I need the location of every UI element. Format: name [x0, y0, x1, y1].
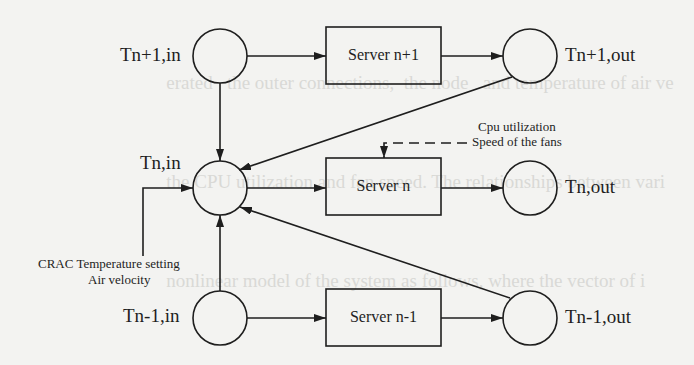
label-out-next: Tn+1,out — [565, 44, 635, 66]
arrow-out-prev-to-in-curr — [240, 207, 510, 298]
arrow-crac-to-in-curr — [143, 188, 193, 256]
arrow-control-to-server-curr — [384, 143, 467, 158]
label-server-next: Server n+1 — [326, 46, 441, 64]
node-out-curr — [503, 161, 557, 215]
label-fan-speed: Speed of the fans — [472, 134, 562, 150]
label-server-prev: Server n-1 — [326, 308, 441, 326]
node-in-next — [193, 29, 247, 83]
node-out-next — [503, 29, 557, 83]
label-crac-temperature: CRAC Temperature setting — [38, 256, 180, 272]
node-in-curr — [193, 161, 247, 215]
label-cpu-utilization: Cpu utilization — [478, 119, 556, 135]
arrow-out-next-to-in-curr — [239, 77, 512, 170]
label-in-next: Tn+1,in — [120, 44, 181, 66]
node-in-prev — [193, 291, 247, 345]
label-in-prev: Tn-1,in — [123, 305, 179, 327]
label-server-curr: Server n — [326, 177, 441, 195]
label-air-velocity: Air velocity — [88, 272, 150, 288]
label-out-prev: Tn-1,out — [565, 306, 631, 328]
node-out-prev — [503, 291, 557, 345]
label-out-curr: Tn,out — [565, 176, 615, 198]
label-in-curr: Tn,in — [140, 152, 181, 174]
